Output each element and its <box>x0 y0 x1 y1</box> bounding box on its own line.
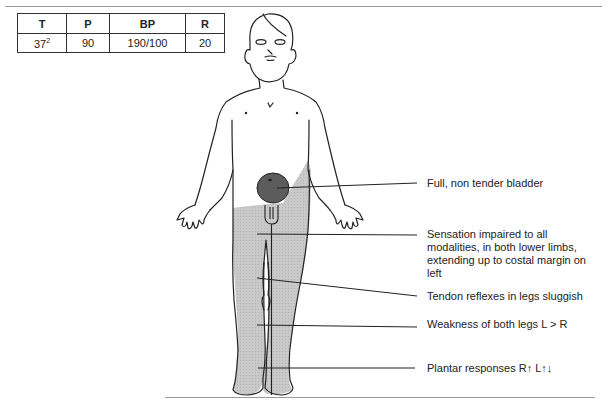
body-figure <box>0 0 608 405</box>
bottom-rule <box>165 397 595 398</box>
annotation-tendon-reflexes: Tendon reflexes in legs sluggish <box>427 290 583 303</box>
annotation-bladder: Full, non tender bladder <box>427 177 543 190</box>
right-hand-outline <box>177 205 210 229</box>
annotation-weakness: Weakness of both legs L > R <box>427 318 567 331</box>
annotation-sensation: Sensation impaired to all modalities, in… <box>427 228 587 280</box>
left-hand-outline <box>330 205 363 229</box>
annotation-plantar-responses: Plantar responses R↑ L↑↓ <box>427 362 552 375</box>
